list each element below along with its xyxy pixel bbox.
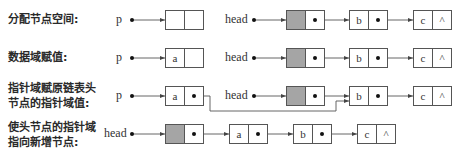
pointer-dot-icon xyxy=(313,18,317,22)
head-variable: head xyxy=(225,12,248,27)
null-pointer-icon: ^ xyxy=(432,87,451,105)
pointer-field xyxy=(312,125,331,143)
head-variable: head xyxy=(225,88,248,103)
data-field: a xyxy=(166,49,184,67)
list-node: c ^ xyxy=(413,86,452,106)
pointer-dot-icon xyxy=(376,94,380,98)
list-node: c ^ xyxy=(413,48,452,68)
pointer-field xyxy=(184,49,203,67)
pointer-field xyxy=(305,87,324,105)
step-1-label: 分配节点空间: xyxy=(8,12,78,27)
pointer-dot-icon xyxy=(192,132,196,136)
data-field: b xyxy=(350,87,368,105)
pointer-dot-icon xyxy=(376,18,380,22)
list-node: b xyxy=(349,48,388,68)
pointer-field xyxy=(368,49,387,67)
head-data-field xyxy=(287,11,305,29)
list-node: c ^ xyxy=(413,10,452,30)
list-node: c ^ xyxy=(357,124,396,144)
p-variable: p xyxy=(116,50,122,65)
data-field: a xyxy=(230,125,248,143)
step-4-label-line2: 指向新增节点: xyxy=(8,135,78,150)
head-node xyxy=(286,86,325,106)
data-field: c xyxy=(414,11,432,29)
data-field: b xyxy=(350,49,368,67)
head-node xyxy=(286,10,325,30)
head-data-field xyxy=(287,49,305,67)
step-2-label: 数据域赋值: xyxy=(8,50,67,65)
pointer-dot-icon xyxy=(376,56,380,60)
data-field: c xyxy=(414,87,432,105)
pointer-field xyxy=(248,125,267,143)
head-data-field xyxy=(166,125,184,143)
data-field: a xyxy=(166,87,184,105)
data-field: b xyxy=(350,11,368,29)
pointer-dot-icon xyxy=(313,94,317,98)
step-4-label-line1: 使头节点的指针域 xyxy=(8,120,96,135)
head-variable: head xyxy=(225,50,248,65)
new-node: a xyxy=(165,86,204,106)
pointer-field xyxy=(368,11,387,29)
null-pointer-icon: ^ xyxy=(432,11,451,29)
head-variable: head xyxy=(104,126,127,141)
head-data-field xyxy=(287,87,305,105)
pointer-field xyxy=(184,125,203,143)
head-node xyxy=(286,48,325,68)
p-variable: p xyxy=(116,12,122,27)
pointer-field xyxy=(184,11,203,29)
pointer-field xyxy=(368,87,387,105)
null-pointer-icon: ^ xyxy=(376,125,395,143)
list-node: b xyxy=(293,124,332,144)
pointer-field xyxy=(184,87,203,105)
pointer-field xyxy=(305,11,324,29)
list-node: a xyxy=(229,124,268,144)
data-field: c xyxy=(358,125,376,143)
data-field xyxy=(166,11,184,29)
pointer-dot-icon xyxy=(192,94,196,98)
new-node: a xyxy=(165,48,204,68)
new-node xyxy=(165,10,204,30)
list-node: b xyxy=(349,10,388,30)
data-field: b xyxy=(294,125,312,143)
data-field: c xyxy=(414,49,432,67)
null-pointer-icon: ^ xyxy=(432,49,451,67)
pointer-dot-icon xyxy=(313,56,317,60)
head-node xyxy=(165,124,204,144)
step-3-label-line1: 指针域赋原链表头 xyxy=(8,81,96,96)
pointer-dot-icon xyxy=(320,132,324,136)
pointer-dot-icon xyxy=(256,132,260,136)
step-3-label-line2: 节点的指针域值: xyxy=(8,96,89,111)
list-node: b xyxy=(349,86,388,106)
pointer-field xyxy=(305,49,324,67)
p-variable: p xyxy=(116,88,122,103)
